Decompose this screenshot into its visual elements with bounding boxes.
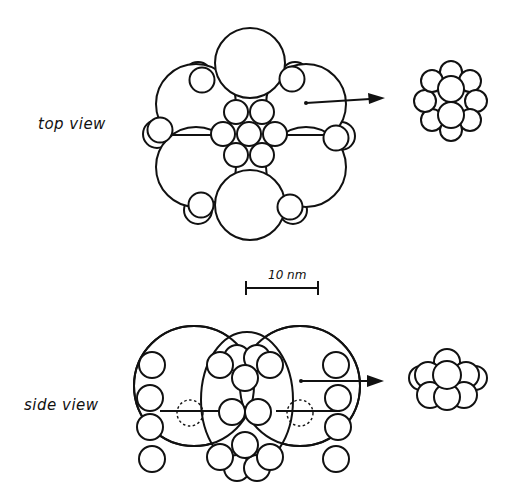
side-isolated-cluster [409, 349, 487, 410]
top-view-complex [143, 28, 355, 240]
diagram-canvas [0, 0, 510, 504]
top-isolated-cluster [414, 61, 487, 141]
side-view-complex [134, 326, 360, 481]
scale-bar [246, 281, 318, 295]
